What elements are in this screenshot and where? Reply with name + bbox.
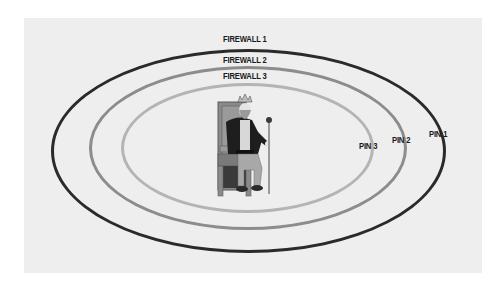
pin-2-label: PIN 2 bbox=[392, 135, 410, 145]
firewall-2-label: FIREWALL 2 bbox=[223, 55, 267, 65]
king-on-throne-icon bbox=[214, 92, 286, 204]
firewall-1-label: FIREWALL 1 bbox=[223, 34, 267, 44]
firewall-3-label: FIREWALL 3 bbox=[223, 71, 267, 81]
pin-1-label: PIN 1 bbox=[429, 129, 447, 139]
pin-3-label: PIN 3 bbox=[359, 141, 377, 151]
